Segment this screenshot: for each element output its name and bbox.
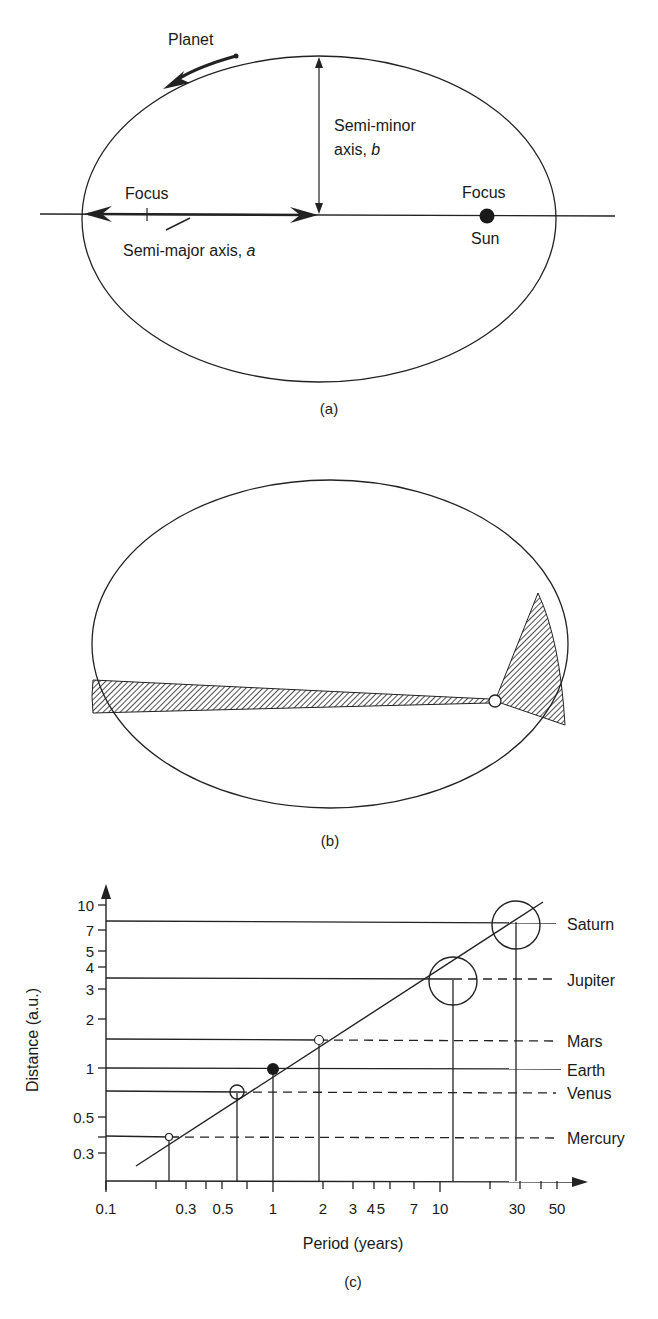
x-axis-arrow-icon: [572, 1177, 588, 1187]
y-axis-arrow-icon: [101, 884, 111, 899]
x-axis: [106, 1181, 580, 1182]
semi-minor-label-line2: axis, b: [334, 141, 380, 158]
svg-text:5: 5: [377, 1200, 385, 1217]
svg-text:4: 4: [86, 959, 94, 976]
y-axis-label: Distance (a.u.): [24, 988, 41, 1092]
caption-c: (c): [344, 1273, 362, 1290]
marker-earth: [267, 1063, 279, 1075]
label-saturn: Saturn: [567, 916, 614, 933]
x-ticks: [106, 1181, 557, 1192]
x-tick-labels: 0.1 0.3 0.5 1 2 3 4 5 7 10 30 50: [96, 1200, 566, 1217]
semi-major-pointer: [166, 218, 190, 230]
svg-text:0.5: 0.5: [73, 1109, 94, 1126]
svg-text:2: 2: [86, 1011, 94, 1028]
semi-major-label: Semi-major axis, a: [123, 242, 256, 259]
planet-label: Planet: [168, 31, 214, 48]
svg-text:1: 1: [269, 1200, 277, 1217]
planet-labels: Saturn Jupiter Mars Earth Venus Mercury: [567, 916, 625, 1147]
svg-text:4: 4: [367, 1200, 375, 1217]
orbit-ellipse-b: [92, 480, 568, 808]
marker-mars: [315, 1036, 324, 1045]
label-venus: Venus: [567, 1085, 611, 1102]
svg-text:7: 7: [86, 922, 94, 939]
svg-text:50: 50: [549, 1200, 566, 1217]
label-mercury: Mercury: [567, 1130, 625, 1147]
svg-text:0.1: 0.1: [96, 1200, 117, 1217]
svg-text:7: 7: [410, 1200, 418, 1217]
period-drop-lines: [169, 922, 516, 1181]
panel-a-orbit-diagram: Planet Semi-minor axis, b Focus Focus Su…: [40, 31, 615, 417]
sun-focus-marker: [489, 695, 501, 707]
y-tick-labels: 10 7 5 4 3 2 1 0.5 0.3: [73, 897, 94, 1162]
arrowhead-down-icon: [315, 203, 323, 214]
svg-text:10: 10: [77, 897, 94, 914]
svg-text:5: 5: [86, 943, 94, 960]
hatched-sector-right: [495, 593, 565, 725]
sun-label: Sun: [471, 230, 499, 247]
svg-text:0.3: 0.3: [73, 1145, 94, 1162]
focus-left-label: Focus: [125, 185, 169, 202]
y-ticks: [98, 905, 106, 1153]
caption-b: (b): [321, 832, 339, 849]
sun-dot: [480, 209, 495, 224]
svg-text:3: 3: [86, 981, 94, 998]
x-axis-label: Period (years): [303, 1235, 403, 1252]
arrowhead-up-icon: [315, 57, 323, 68]
kepler-fit-line: [136, 902, 543, 1166]
svg-text:1: 1: [86, 1060, 94, 1077]
panel-b-equal-areas-diagram: (b): [92, 480, 568, 849]
svg-text:30: 30: [509, 1200, 526, 1217]
svg-text:0.5: 0.5: [213, 1200, 234, 1217]
panel-c-kepler-third-law-chart: 10 7 5 4 3 2 1 0.5 0.3: [24, 884, 625, 1290]
semi-major-arrow: [88, 214, 312, 215]
label-mars: Mars: [567, 1033, 603, 1050]
planet-dot: [234, 54, 239, 59]
svg-text:0.3: 0.3: [176, 1200, 197, 1217]
figure: Planet Semi-minor axis, b Focus Focus Su…: [0, 0, 658, 1319]
focus-right-label: Focus: [462, 184, 506, 201]
caption-a: (a): [320, 400, 338, 417]
planet-level-lines: [106, 921, 561, 1138]
marker-mercury: [166, 1134, 173, 1141]
hatched-sector-left: [92, 680, 490, 713]
svg-text:10: 10: [432, 1200, 449, 1217]
svg-text:3: 3: [349, 1200, 357, 1217]
label-jupiter: Jupiter: [567, 972, 616, 989]
semi-minor-label-line1: Semi-minor: [334, 117, 416, 134]
svg-text:2: 2: [319, 1200, 327, 1217]
label-earth: Earth: [567, 1062, 605, 1079]
